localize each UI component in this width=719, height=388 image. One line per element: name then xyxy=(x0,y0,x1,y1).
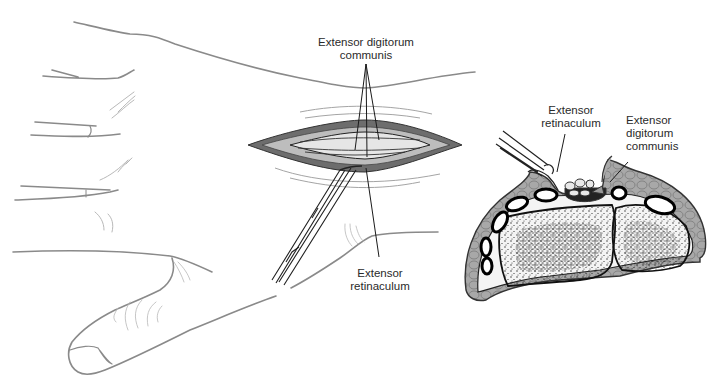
finger-outline xyxy=(31,122,120,136)
label-line: retinaculum xyxy=(535,117,607,130)
label-line: communis xyxy=(626,140,690,153)
finger-outline xyxy=(43,70,134,79)
finger-knuckle xyxy=(88,126,91,137)
label-line: Extensor xyxy=(626,114,690,127)
label-line: communis xyxy=(308,49,424,62)
label-extensor-retinaculum-xs: Extensor retinaculum xyxy=(535,104,607,130)
wrist-cross-section xyxy=(465,156,705,301)
retractor-cross-section xyxy=(496,131,553,176)
edc-tendon-cluster xyxy=(565,179,606,202)
label-line: digitorum xyxy=(626,127,690,140)
thumbnail xyxy=(70,346,112,364)
palm-lower-outline xyxy=(13,251,212,272)
label-extensor-retinaculum-bottom: Extensor retinaculum xyxy=(340,267,420,293)
finger-outline xyxy=(15,186,118,200)
hand-illustration xyxy=(13,22,475,374)
label-line: retinaculum xyxy=(340,280,420,293)
label-line: Extensor xyxy=(340,267,420,280)
thumb-outline xyxy=(69,258,276,374)
label-line: Extensor xyxy=(535,104,607,117)
label-line: Extensor digitorum xyxy=(308,36,424,49)
label-extensor-digitorum-communis-top: Extensor digitorum communis xyxy=(308,36,424,62)
label-extensor-digitorum-communis-xs: Extensor digitorum communis xyxy=(626,114,690,153)
